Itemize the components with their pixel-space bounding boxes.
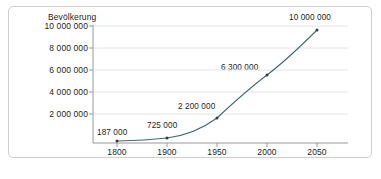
x-tick-label-1800: 1800 (92, 147, 142, 157)
x-tick-label-1900: 1900 (142, 147, 192, 157)
y-tick-label-6000000: 6 000 000 (18, 65, 88, 75)
x-tick-label-2050: 2050 (292, 147, 342, 157)
y-tick-label-10000000: 10 000 000 (18, 21, 88, 31)
point-label-1950: 2 200 000 (178, 102, 215, 111)
x-tick-label-2000: 2000 (242, 147, 292, 157)
point-label-2000: 6 300 000 (221, 63, 258, 72)
chart-figure: Bevölkerung 10 000 000 8 000 000 6 000 0… (0, 0, 381, 179)
y-tick-label-8000000: 8 000 000 (18, 43, 88, 53)
point-label-1800: 187 000 (97, 128, 127, 137)
y-tick-label-4000000: 4 000 000 (18, 87, 88, 97)
point-label-1900: 725 000 (147, 121, 177, 130)
point-label-2050: 10 000 000 (289, 13, 331, 22)
y-tick-label-2000000: 2 000 000 (18, 109, 88, 119)
x-tick-label-1950: 1950 (192, 147, 242, 157)
